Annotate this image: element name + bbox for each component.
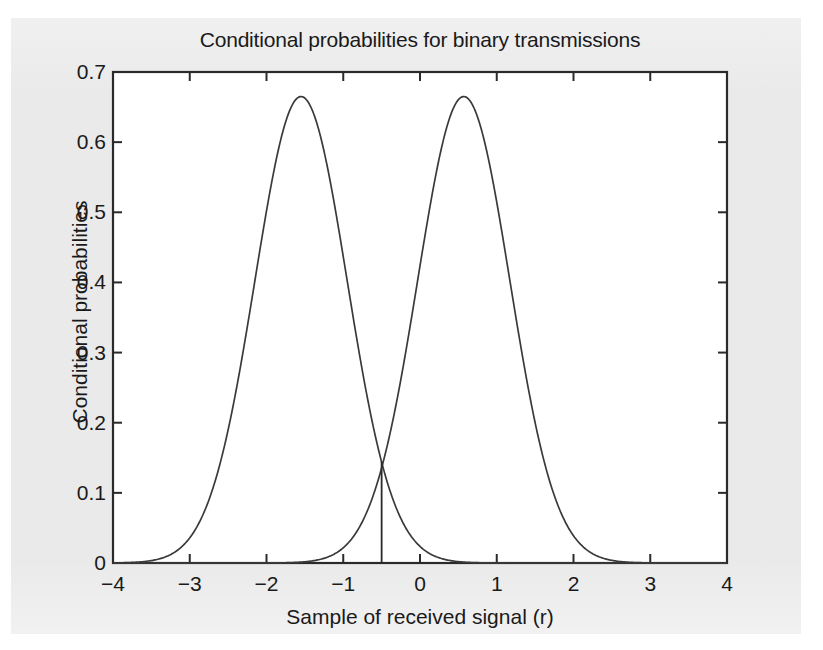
- figure-page: Conditional probabilities for binary tra…: [0, 0, 823, 650]
- chart-plot-area: [0, 0, 823, 650]
- chart-figure: Conditional probabilities for binary tra…: [0, 0, 823, 650]
- plot-interior: [113, 72, 727, 563]
